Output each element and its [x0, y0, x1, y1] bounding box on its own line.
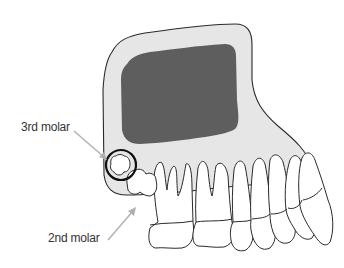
first-molar-1: [149, 162, 194, 248]
second-molar-label: 2nd molar: [48, 231, 100, 245]
maxillary-sinus: [121, 44, 238, 144]
second-molar-pointer-arrow: [108, 207, 136, 240]
third-molar-label: 3rd molar: [21, 120, 70, 134]
maxilla-diagram: [0, 0, 344, 268]
third-molar-pointer-arrow: [74, 131, 107, 160]
